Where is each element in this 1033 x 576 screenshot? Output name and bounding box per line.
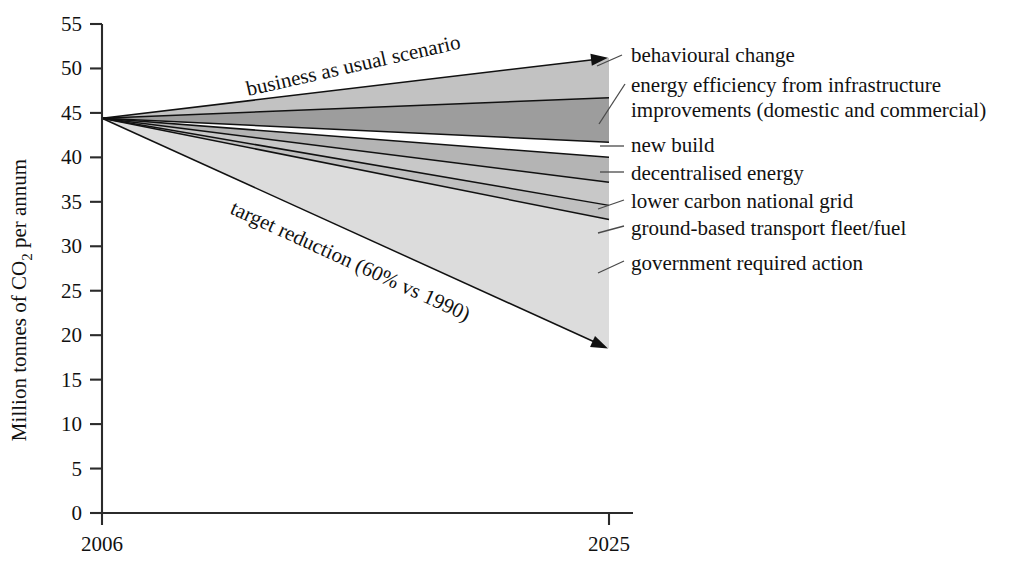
y-tick-label-45: 45 (61, 101, 82, 125)
y-tick-label-25: 25 (61, 279, 82, 303)
y-tick-group (90, 24, 102, 513)
callout-decentralised-energy: decentralised energy (631, 161, 804, 185)
co2-reduction-wedge-chart: 0510152025303540455055 2006 2025 Million… (0, 0, 1033, 576)
svg-text:Million tonnes of CO2 per annu: Million tonnes of CO2 per annum (7, 159, 35, 441)
callout-ground-transport: ground-based transport fleet/fuel (631, 216, 906, 240)
y-tick-label-5: 5 (72, 457, 83, 481)
callout-government-action: government required action (631, 251, 864, 275)
callout-energy-efficiency-line1: energy efficiency from infrastructure (631, 73, 941, 97)
y-tick-label-0: 0 (72, 501, 83, 525)
x-tick-label-2025: 2025 (588, 532, 630, 556)
callout-behavioural-change: behavioural change (631, 43, 795, 67)
chart-figure: 0510152025303540455055 2006 2025 Million… (0, 0, 1033, 576)
y-axis-title: Million tonnes of CO2 per annum (7, 159, 35, 441)
y-axis-title-tail: per annum (7, 159, 31, 253)
y-tick-label-15: 15 (61, 368, 82, 392)
y-tick-label-55: 55 (61, 12, 82, 36)
y-tick-label-50: 50 (61, 56, 82, 80)
y-tick-label-group: 0510152025303540455055 (61, 12, 82, 525)
callout-new-build: new build (631, 133, 715, 157)
callout-text-group: behavioural change energy efficiency fro… (631, 43, 986, 275)
y-axis-title-subscript: 2 (19, 253, 35, 261)
y-tick-label-35: 35 (61, 190, 82, 214)
x-tick-label-2006: 2006 (81, 532, 123, 556)
callout-lower-carbon-grid: lower carbon national grid (631, 189, 854, 213)
callout-energy-efficiency-line2: improvements (domestic and commercial) (631, 98, 986, 122)
y-tick-label-20: 20 (61, 323, 82, 347)
y-tick-label-40: 40 (61, 145, 82, 169)
y-axis-title-main: Million tonnes of CO (7, 261, 31, 441)
y-tick-label-10: 10 (61, 412, 82, 436)
y-tick-label-30: 30 (61, 234, 82, 258)
